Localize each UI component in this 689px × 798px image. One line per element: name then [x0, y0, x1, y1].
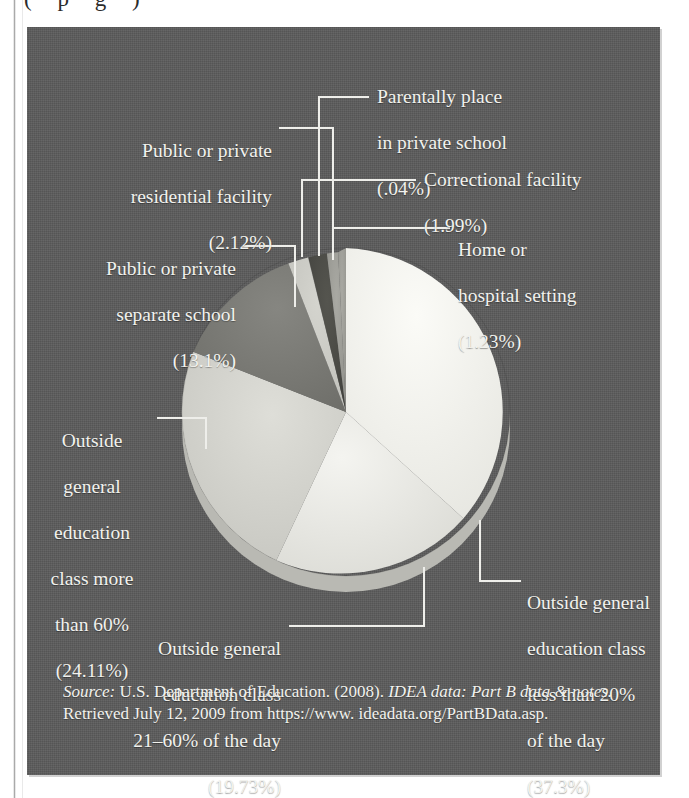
label-separate-school-line2: separate school [116, 304, 236, 325]
label-more-than-60-line2: general [63, 476, 120, 497]
leader-residential-vertical [332, 127, 334, 260]
leader-less-than-20-horizontal [479, 580, 521, 582]
book-gutter-rule [13, 0, 16, 798]
label-21-60-line3: 21–60% of the day [133, 730, 281, 751]
source-rest: U.S. Department of Education. (2008). [115, 682, 388, 701]
label-21-60-line1: Outside general [158, 638, 281, 659]
leader-correctional-vertical [301, 179, 303, 257]
leader-21-60-vertical [423, 567, 425, 627]
book-gutter-rule-secondary [22, 0, 23, 798]
leader-parentally-private-horizontal [318, 96, 369, 98]
source-line-2: Retrieved July 12, 2009 from https://www… [63, 703, 638, 725]
label-separate-school: Public or private separate school (13.1%… [22, 234, 236, 372]
label-21-60-line4: (19.73%) [208, 776, 281, 797]
source-title: IDEA data: Part B data & notes. [388, 682, 612, 701]
figure-page: ( p g ) [0, 0, 689, 798]
label-home-hospital-line2: hospital setting [458, 285, 577, 306]
label-separate-school-line1: Public or private [106, 258, 236, 279]
leader-parentally-private-vertical [318, 96, 320, 256]
leader-more-than-60-vertical [205, 417, 207, 449]
leader-separate-school-vertical [294, 245, 296, 307]
source-citation: Source: U.S. Department of Education. (2… [63, 681, 638, 725]
label-less-than-20-line5: (37.3%) [527, 776, 590, 797]
label-home-hospital: Home or hospital setting (1.23%) [458, 215, 658, 353]
label-more-than-60-line4: class more [51, 568, 134, 589]
label-less-than-20-line4: of the day [527, 730, 605, 751]
leader-21-60-horizontal [289, 625, 425, 627]
source-prefix: Source: [63, 682, 115, 701]
leader-less-than-20-vertical [479, 520, 481, 582]
label-less-than-20-line2: education class [527, 638, 646, 659]
label-residential-line2: residential facility [131, 186, 272, 207]
source-line-1: Source: U.S. Department of Education. (2… [63, 681, 638, 703]
label-less-than-20-line1: Outside general [527, 592, 650, 613]
label-home-hospital-line1: Home or [458, 239, 527, 260]
cut-off-heading-text: ( p g ) [24, 0, 324, 12]
label-residential-line1: Public or private [142, 140, 272, 161]
label-correctional-line1: Correctional facility [424, 169, 582, 190]
label-parentally-private-line1: Parentally place [377, 86, 502, 107]
leader-more-than-60-horizontal [157, 417, 207, 419]
label-home-hospital-line3: (1.23%) [458, 331, 521, 352]
figure-panel: Parentally place in private school (.04%… [27, 27, 660, 775]
label-more-than-60-line3: education [54, 522, 130, 543]
label-more-than-60-line1: Outside [62, 430, 123, 451]
label-separate-school-line3: (13.1%) [173, 350, 236, 371]
leader-residential-horizontal [279, 127, 334, 129]
label-parentally-private-line3: (.04%) [377, 178, 431, 199]
